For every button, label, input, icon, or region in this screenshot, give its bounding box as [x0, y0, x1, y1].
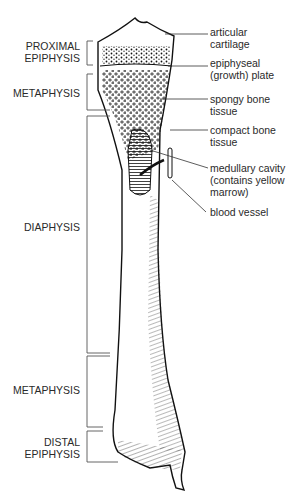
epiphysis-texture [102, 46, 170, 64]
label-line: epiphyseal [210, 57, 294, 69]
label-line: tissue [210, 105, 294, 117]
label-line: PROXIMAL [0, 40, 80, 52]
label-proximal-epiphysis: PROXIMAL EPIPHYSIS [0, 40, 80, 64]
label-line: articular [210, 26, 294, 38]
label-line: tissue [210, 136, 294, 148]
label-line: METAPHYSIS [0, 87, 80, 99]
label-medullary-cavity: medullary cavity (contains yellow marrow… [210, 162, 294, 198]
label-line: DISTAL [0, 436, 80, 448]
label-line: medullary cavity [210, 162, 294, 174]
medullary-cavity-shape [128, 129, 152, 195]
label-epiphyseal-plate: epiphyseal (growth) plate [210, 57, 294, 81]
label-blood-vessel: blood vessel [210, 206, 294, 218]
label-line: blood vessel [210, 206, 294, 218]
label-compact-bone: compact bone tissue [210, 124, 294, 148]
label-metaphysis-upper: METAPHYSIS [0, 87, 80, 99]
label-line: EPIPHYSIS [0, 52, 80, 64]
label-distal-epiphysis: DISTAL EPIPHYSIS [0, 436, 80, 460]
label-line: spongy bone [210, 93, 294, 105]
label-line: EPIPHYSIS [0, 448, 80, 460]
label-line: (contains yellow [210, 174, 294, 186]
label-diaphysis: DIAPHYSIS [0, 221, 80, 233]
label-line: marrow) [210, 186, 294, 198]
label-line: cartilage [210, 38, 294, 50]
label-line: METAPHYSIS [0, 384, 80, 396]
label-line: DIAPHYSIS [0, 221, 80, 233]
label-articular-cartilage: articular cartilage [210, 26, 294, 50]
label-line: (growth) plate [210, 69, 294, 81]
label-metaphysis-lower: METAPHYSIS [0, 384, 80, 396]
label-line: compact bone [210, 124, 294, 136]
label-spongy-bone: spongy bone tissue [210, 93, 294, 117]
